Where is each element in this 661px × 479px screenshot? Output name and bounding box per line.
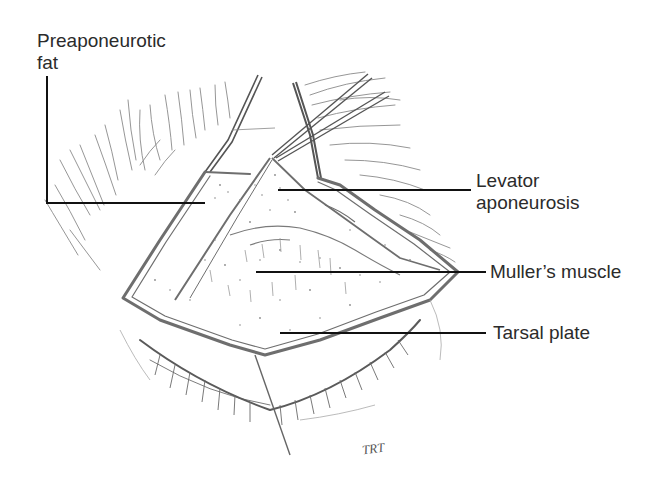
tissue-stipple [154, 174, 411, 331]
label-line: Tarsal plate [493, 322, 590, 344]
retractor-right [293, 82, 321, 178]
label-line: Muller’s muscle [490, 261, 621, 283]
label-preaponeurotic-fat: Preaponeurotic fat [37, 30, 166, 74]
label-line: aponeurosis [476, 192, 580, 214]
label-mullers-muscle: Muller’s muscle [490, 261, 621, 283]
wound-margin [123, 172, 458, 355]
mullers-muscle-shape [230, 226, 400, 275]
leader-preaponeurotic-fat [47, 76, 205, 203]
levator-aponeurosis-shape [175, 158, 440, 300]
label-line: Preaponeurotic [37, 30, 166, 52]
label-tarsal-plate: Tarsal plate [493, 322, 590, 344]
tissue-hatching [210, 238, 346, 302]
eyelashes [155, 340, 408, 425]
retractor-left [205, 75, 262, 172]
forceps [272, 74, 389, 161]
leader-lines [47, 76, 486, 333]
label-levator-aponeurosis: Levator aponeurosis [476, 170, 580, 214]
label-line: fat [37, 52, 166, 74]
label-line: Levator [476, 170, 580, 192]
artist-signature: TRT [361, 440, 385, 459]
